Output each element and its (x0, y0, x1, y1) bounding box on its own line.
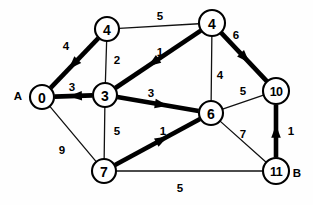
edge-weight-n11-n10: 1 (288, 125, 295, 137)
graph-node-n7[interactable]: 7 (92, 159, 116, 183)
target-terminal-b: B (293, 167, 301, 179)
arrowhead-n11-n10 (271, 125, 281, 138)
graph-node-n3[interactable]: 3 (93, 83, 117, 107)
edge-n4a-n3 (105, 41, 106, 83)
edge-n6-n10 (223, 95, 264, 109)
edge-weight-n3-n7: 5 (114, 125, 121, 137)
edge-weight-n3-n0: 3 (69, 81, 75, 93)
node-label-n10: 10 (270, 85, 283, 99)
edge-n3-n7 (104, 107, 105, 159)
edge-n0-n7 (50, 106, 96, 161)
graph-svg: 4403610711 542316435591715 AB (0, 0, 313, 205)
node-label-n0: 0 (38, 90, 46, 106)
graph-node-n4a[interactable]: 4 (95, 17, 119, 41)
graph-node-n4b[interactable]: 4 (199, 10, 225, 36)
edge-weight-n4b-n3: 1 (157, 46, 164, 58)
edge-weight-n3-n6: 3 (148, 87, 154, 99)
edge-weight-n4b-n6: 4 (217, 69, 224, 81)
edge-weight-n4a-n0: 4 (63, 40, 70, 52)
graph-node-n10[interactable]: 10 (263, 78, 289, 104)
node-label-n6: 6 (207, 106, 215, 122)
edge-weight-n4b-n10: 6 (233, 29, 239, 41)
source-terminal-a: A (14, 90, 22, 102)
graph-node-n0[interactable]: 0 (30, 85, 54, 109)
edge-weight-n4a-n4b: 5 (157, 10, 164, 22)
edge-weight-n6-n11: 7 (240, 128, 246, 140)
node-label-n4b: 4 (208, 16, 216, 32)
edge-weight-n6-n10: 5 (240, 85, 247, 97)
node-label-n4a: 4 (103, 22, 111, 38)
graph-diagram-canvas: 4403610711 542316435591715 AB (0, 0, 313, 205)
node-label-n11: 11 (270, 165, 283, 179)
graph-node-n6[interactable]: 6 (199, 101, 223, 125)
edge-weight-n7-n11: 5 (177, 182, 184, 194)
node-label-n7: 7 (100, 164, 108, 180)
edge-weight-n0-n7: 9 (59, 144, 65, 156)
edge-weight-n7-n6: 1 (160, 125, 167, 137)
edge-n4a-n4b (119, 24, 199, 29)
edge-n4b-n6 (211, 36, 212, 101)
edge-weight-n4a-n3: 2 (114, 54, 120, 66)
node-label-n3: 3 (101, 88, 109, 104)
graph-node-n11[interactable]: 11 (263, 158, 289, 184)
